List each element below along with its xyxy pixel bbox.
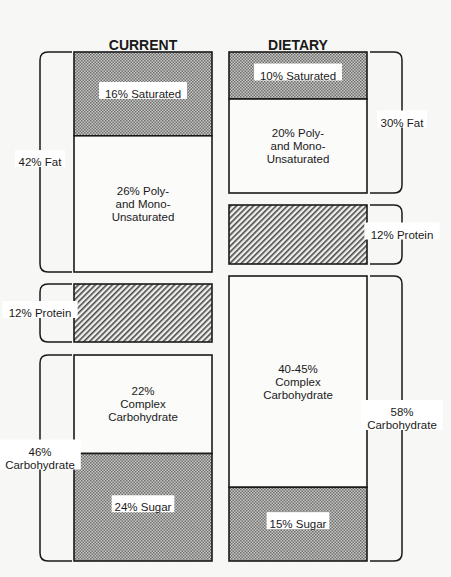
current-saturated-label: 16% Saturated [99, 82, 187, 100]
current-protein-group-label-line: 12% Protein [9, 307, 72, 319]
current-saturated-label-line: 16% Saturated [105, 88, 181, 100]
goals-carbohydrate-group-label-line: 58% [390, 406, 413, 418]
goals-complex-carbohydrate-label-line: 40-45% [278, 363, 318, 375]
goals-protein-bar [229, 205, 367, 264]
current-unsaturated-label-line: 26% Poly- [117, 185, 170, 197]
current-protein-group-label: 12% Protein [2, 301, 77, 319]
current-complex-carbohydrate-label-line: Carbohydrate [108, 411, 178, 423]
current-unsaturated-label: 26% Poly-and Mono-Unsaturated [112, 185, 175, 223]
diet-comparison-chart: CURRENTDIETDIETARYGOALS 16% Saturated26%… [0, 0, 451, 577]
goals-protein-group-label-line: 12% Protein [371, 229, 434, 241]
current-complex-carbohydrate-label-line: Complex [120, 398, 166, 410]
current-sugar-label: 24% Sugar [112, 495, 175, 513]
goals-sugar-label: 15% Sugar [267, 512, 330, 530]
goals-carbohydrate-group-label: 58%Carbohydrate [361, 400, 443, 431]
current-unsaturated-label-line: Unsaturated [112, 211, 175, 223]
current-complex-carbohydrate-label-line: 22% [131, 385, 154, 397]
goals-unsaturated-label-line: and Mono- [271, 140, 326, 152]
current-carbohydrate-group-label-line: 46% [28, 446, 51, 458]
goals-complex-carbohydrate-label-line: Carbohydrate [263, 389, 333, 401]
current-column-title: CURRENT [109, 37, 178, 53]
goals-fat-group-label-line: 30% Fat [381, 117, 425, 129]
goals-fat-group-label: 30% Fat [377, 111, 427, 129]
current-sugar-label-line: 24% Sugar [115, 501, 172, 513]
goals-unsaturated-label-line: 20% Poly- [272, 127, 325, 139]
goals-protein-group-label: 12% Protein [364, 223, 439, 241]
current-fat-group-label-line: 42% Fat [19, 156, 63, 168]
goals-complex-carbohydrate-label-line: Complex [275, 376, 321, 388]
current-carbohydrate-group-label: 46%Carbohydrate [0, 440, 81, 471]
goals-saturated-label: 10% Saturated [254, 64, 342, 82]
current-protein-bar [74, 284, 212, 342]
goals-column-title: DIETARY [268, 37, 329, 53]
goals-carbohydrate-group-label-line: Carbohydrate [367, 419, 437, 431]
goals-unsaturated-label: 20% Poly-and Mono-Unsaturated [267, 127, 330, 165]
current-fat-group-label: 42% Fat [15, 150, 65, 168]
goals-sugar-label-line: 15% Sugar [270, 518, 327, 530]
goals-unsaturated-label-line: Unsaturated [267, 153, 330, 165]
current-unsaturated-label-line: and Mono- [116, 198, 171, 210]
goals-saturated-label-line: 10% Saturated [260, 70, 336, 82]
current-carbohydrate-group-label-line: Carbohydrate [5, 459, 75, 471]
